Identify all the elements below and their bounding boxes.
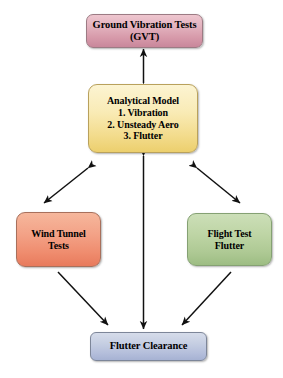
node-flight-test-flutter[interactable]: Flight Test Flutter <box>187 213 272 266</box>
node-wind-tunnel-tests[interactable]: Wind Tunnel Tests <box>16 212 101 267</box>
node-flight-test-flutter-label: Flight Test Flutter <box>188 228 271 252</box>
node-wind-tunnel-tests-label: Wind Tunnel Tests <box>17 228 100 252</box>
connector-analytical-flight <box>197 168 240 203</box>
connector-layer <box>0 0 283 378</box>
node-gvt-label: Ground Vibration Tests (GVT) <box>87 19 202 44</box>
node-flutter-clearance[interactable]: Flutter Clearance <box>90 332 207 361</box>
connector-wind-clearance <box>58 272 108 325</box>
node-flutter-clearance-label: Flutter Clearance <box>91 340 206 352</box>
node-analytical-model-label: Analytical Model 1. Vibration 2. Unstead… <box>89 95 197 142</box>
node-analytical-model[interactable]: Analytical Model 1. Vibration 2. Unstead… <box>88 84 198 153</box>
connector-analytical-wind <box>44 168 88 203</box>
connector-flight-clearance <box>182 272 231 325</box>
diagram-canvas: Ground Vibration Tests (GVT) Analytical … <box>0 0 283 378</box>
node-ground-vibration-tests[interactable]: Ground Vibration Tests (GVT) <box>86 14 203 48</box>
